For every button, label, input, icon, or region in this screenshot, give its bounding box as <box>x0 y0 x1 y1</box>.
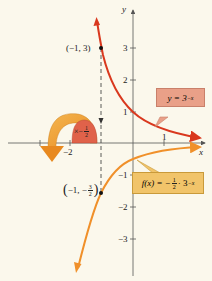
point-lower-prefix: −1, − <box>68 186 87 195</box>
x-tick-1: 1 <box>162 133 167 142</box>
guide-arrow-icon <box>99 118 104 124</box>
orange-callout-exp: −x <box>188 180 195 186</box>
red-curve <box>97 21 200 138</box>
orange-curve-start-arrow <box>74 262 82 273</box>
reflect-prefix: ×− <box>74 128 83 136</box>
y-tick-1: 1 <box>123 108 128 117</box>
frac-den: 2 <box>85 132 88 138</box>
orange-callout-mid: · 3 <box>178 178 188 188</box>
red-callout-exp: −x <box>187 95 194 101</box>
point-upper-label: (−1, 3) <box>66 44 91 53</box>
y-tick-3: 3 <box>123 44 128 53</box>
y-tick-neg2: −2 <box>118 203 128 212</box>
point-upper <box>99 46 103 50</box>
graph-canvas <box>0 0 212 281</box>
frac-num: 1 <box>84 125 89 132</box>
y-axis-label: y <box>122 5 126 14</box>
reflect-multiplier-label: ×−12 <box>74 125 90 138</box>
frac-den: 2 <box>89 191 92 197</box>
orange-curve <box>78 147 200 268</box>
point-lower <box>99 191 103 195</box>
red-curve-start-arrow <box>94 17 101 26</box>
y-tick-2: 2 <box>123 76 128 85</box>
x-axis-label: x <box>199 148 203 157</box>
y-tick-neg1: −1 <box>118 171 128 180</box>
orange-curve-callout: f(x) = −12 · 3−x <box>132 172 204 194</box>
reflect-arrowhead <box>40 146 64 162</box>
red-callout-text: y = 3 <box>168 93 187 103</box>
red-callout-pointer <box>155 117 168 127</box>
frac-den: 2 <box>173 184 176 190</box>
red-curve-callout: y = 3−x <box>156 88 205 107</box>
x-tick-neg2: −2 <box>63 148 73 157</box>
point-lower-label: (−1, −32) <box>63 183 99 197</box>
orange-callout-prefix: f(x) = − <box>142 178 171 188</box>
frac-num: 1 <box>172 177 177 184</box>
y-tick-neg3: −3 <box>118 235 128 244</box>
frac-num: 3 <box>88 184 93 191</box>
